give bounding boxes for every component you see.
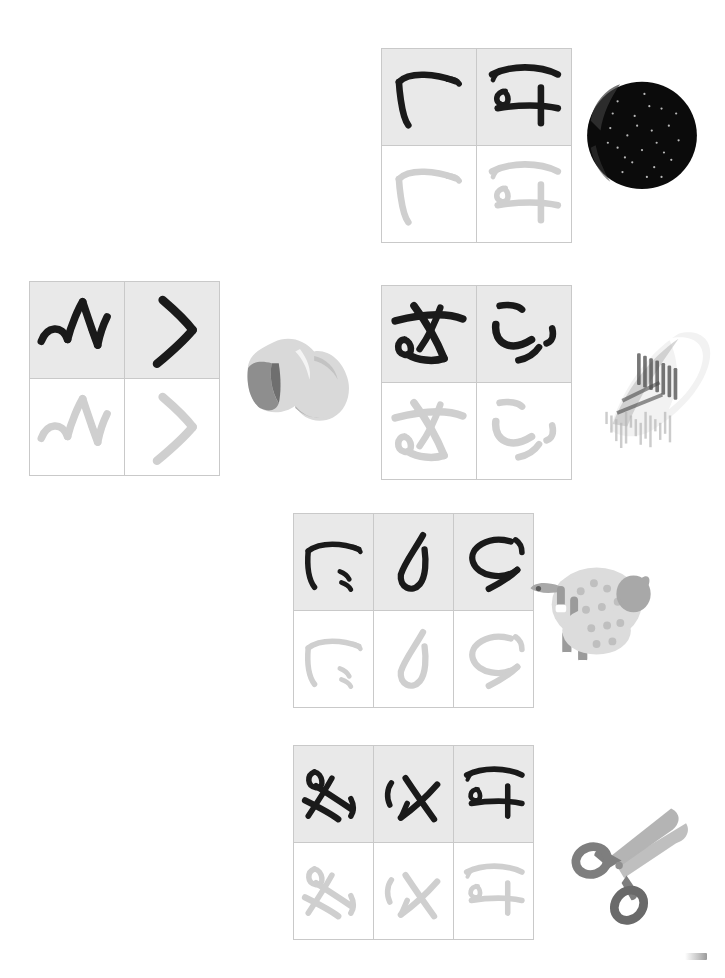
stroke-three-commas-model-icon <box>477 286 571 382</box>
group-5-table <box>293 745 534 940</box>
model-cell-stroke-cross-tick <box>374 746 454 843</box>
stroke-wave-zigzag-trace-icon <box>30 379 124 475</box>
group-2-table <box>29 281 220 476</box>
stroke-hook-left-trace-icon <box>382 146 476 242</box>
stroke-cross-tick-trace-icon <box>374 843 453 939</box>
stroke-crossed-loop-model-icon <box>382 286 476 382</box>
stroke-cross-tick-model-icon <box>374 746 453 842</box>
crumpled-cloth-photo <box>236 316 364 434</box>
model-cell-stroke-angle-chevron <box>125 282 220 379</box>
trace-cell-stroke-angle-chevron[interactable] <box>125 379 220 476</box>
stroke-tai-bar-loop-2-model-icon <box>454 746 533 842</box>
stroke-angle-chevron-model-icon <box>125 282 219 378</box>
model-cell-stroke-hook-left <box>382 49 477 146</box>
model-cell-stroke-tai-bar-loop-2 <box>454 746 534 843</box>
stroke-j-curve-trace-icon <box>374 611 453 707</box>
stroke-crossed-loop-trace-icon <box>382 383 476 479</box>
model-cell-stroke-wave-zigzag <box>30 282 125 379</box>
group-2-trace-strokes <box>30 379 220 476</box>
trace-cell-stroke-tai-bar-loop-2[interactable] <box>454 843 534 940</box>
group-2-model-strokes <box>30 282 220 379</box>
group-4-model-strokes <box>294 514 534 611</box>
group-5-model-strokes <box>294 746 534 843</box>
group-1-trace-strokes <box>382 146 572 243</box>
stroke-tai-bar-loop-model-icon <box>477 49 571 145</box>
trace-cell-stroke-wave-zigzag[interactable] <box>30 379 125 476</box>
worksheet-page <box>0 0 725 978</box>
stroke-hook-left-model-icon <box>382 49 476 145</box>
trace-cell-stroke-hook-with-ticks[interactable] <box>294 611 374 708</box>
group-5-trace-strokes <box>294 843 534 940</box>
model-cell-stroke-three-commas <box>477 286 572 383</box>
group-4-table <box>293 513 534 708</box>
trace-cell-stroke-j-curve[interactable] <box>374 611 454 708</box>
scissors-photo <box>560 806 698 930</box>
model-cell-stroke-tai-bar-loop <box>477 49 572 146</box>
stroke-hook-with-ticks-model-icon <box>294 514 373 610</box>
group-1-table <box>381 48 572 243</box>
stroke-three-commas-trace-icon <box>477 383 571 479</box>
trace-cell-stroke-hook-left[interactable] <box>382 146 477 243</box>
stroke-tai-bar-loop-trace-icon <box>477 146 571 242</box>
model-cell-stroke-crossed-loop <box>382 286 477 383</box>
stroke-star-knot-model-icon <box>294 746 373 842</box>
stroke-star-knot-trace-icon <box>294 843 373 939</box>
stroke-hook-with-ticks-trace-icon <box>294 611 373 707</box>
trace-cell-stroke-cross-tick[interactable] <box>374 843 454 940</box>
group-1-model-strokes <box>382 49 572 146</box>
stroke-tai-bar-loop-2-trace-icon <box>454 843 533 939</box>
group-3-trace-strokes <box>382 383 572 480</box>
stroke-wave-zigzag-model-icon <box>30 282 124 378</box>
model-cell-stroke-j-curve <box>374 514 454 611</box>
model-cell-stroke-star-knot <box>294 746 374 843</box>
trace-cell-stroke-tai-bar-loop[interactable] <box>477 146 572 243</box>
model-cell-stroke-hook-with-ticks <box>294 514 374 611</box>
sheep-photo <box>518 549 654 681</box>
trace-cell-stroke-three-commas[interactable] <box>477 383 572 480</box>
rolled-newspaper-photo <box>598 322 720 448</box>
group-3-model-strokes <box>382 286 572 383</box>
trace-cell-stroke-crossed-loop[interactable] <box>382 383 477 480</box>
stroke-angle-chevron-trace-icon <box>125 379 219 475</box>
trace-cell-stroke-star-knot[interactable] <box>294 843 374 940</box>
stroke-j-curve-model-icon <box>374 514 453 610</box>
group-4-trace-strokes <box>294 611 534 708</box>
page-corner-smudge <box>685 953 707 960</box>
group-3-table <box>381 285 572 480</box>
dark-round-fruit-photo <box>578 72 706 194</box>
